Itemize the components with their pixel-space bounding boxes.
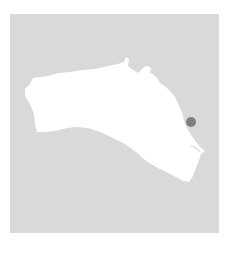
location-marker: [186, 117, 196, 127]
locator-map: [0, 0, 231, 267]
island-shape: [25, 57, 205, 182]
